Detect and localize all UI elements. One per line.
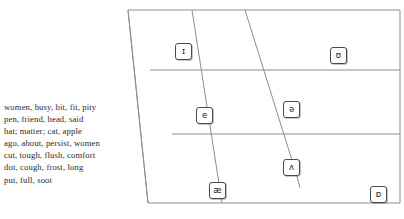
wordlist-line: ago, about, persist, women: [4, 137, 144, 149]
wordlist-text: hat; matter; cat, apple: [4, 126, 82, 136]
wordlist-line: put, full, soot: [4, 174, 144, 186]
phoneme-box-e[interactable]: e: [196, 107, 213, 124]
phoneme-glyph-schwa: ə: [289, 105, 294, 114]
phoneme-box-openo[interactable]: ɒ: [370, 186, 387, 203]
wordlist-text: put, full, soot: [4, 175, 52, 185]
phoneme-glyph-upsilon: ʊ: [336, 51, 341, 60]
phoneme-box-i[interactable]: ɪ: [175, 43, 192, 60]
wordlist-text: ago, about, persist, women: [4, 138, 100, 148]
example-wordlist: women, busy, bit, fit, pity pen, friend,…: [4, 101, 144, 186]
wordlist-line: hat; matter; cat, apple: [4, 125, 144, 137]
phoneme-box-upsilon[interactable]: ʊ: [330, 47, 347, 64]
wordlist-text: women, busy, bit, fit, pity: [4, 102, 96, 112]
phoneme-box-caret[interactable]: ʌ: [283, 159, 300, 176]
quad-oblique-2: [245, 10, 296, 173]
wordlist-line: pen, friend, head, said: [4, 113, 144, 125]
phoneme-glyph-i: ɪ: [182, 47, 185, 56]
phoneme-glyph-e: e: [202, 111, 207, 120]
phoneme-glyph-ash: æ: [213, 186, 221, 195]
quad-outline: [128, 10, 400, 203]
phoneme-glyph-openo: ɒ: [376, 190, 381, 199]
wordlist-text: cut, tough, flush, comfort: [4, 150, 95, 160]
wordlist-text: pen, friend, head, said: [4, 114, 83, 124]
wordlist-line: cut, tough, flush, comfort: [4, 149, 144, 161]
vowel-chart-figure: ɪ ʊ e ə ʌ æ ɒ women, busy, bit, fit, pit…: [0, 0, 404, 219]
phoneme-box-schwa[interactable]: ə: [283, 101, 300, 118]
wordlist-line: dot, cough, frost, long: [4, 161, 144, 173]
wordlist-text: dot, cough, frost, long: [4, 162, 83, 172]
phoneme-box-ash[interactable]: æ: [209, 182, 226, 199]
wordlist-line: women, busy, bit, fit, pity: [4, 101, 144, 113]
phoneme-glyph-caret: ʌ: [289, 163, 294, 172]
